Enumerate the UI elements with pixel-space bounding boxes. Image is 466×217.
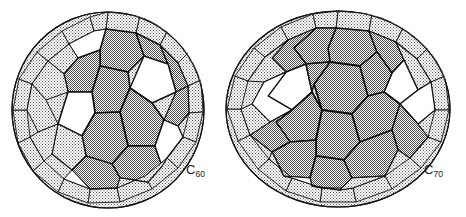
label-c60: C60 (186, 163, 205, 176)
label-c70: C70 (424, 163, 443, 176)
label-c60-subscript: 60 (196, 169, 205, 179)
label-c70-subscript: 70 (434, 169, 443, 179)
label-c70-element: C (424, 162, 434, 177)
fullerene-figure: C60 C70 (0, 0, 466, 217)
label-c60-element: C (186, 162, 196, 177)
molecule-c60 (12, 12, 204, 208)
molecule-c70 (226, 11, 450, 207)
fullerene-illustration (0, 0, 466, 217)
